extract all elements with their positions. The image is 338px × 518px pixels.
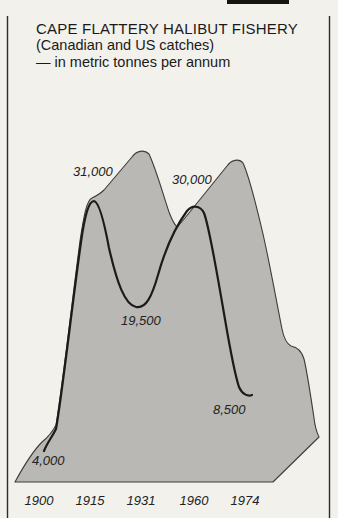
valley-value-label: 19,500 [121,313,162,328]
year-tick-1974: 1974 [231,493,260,508]
end-value-label: 8,500 [213,402,246,417]
year-tick-1931: 1931 [127,493,156,508]
year-tick-1960: 1960 [180,493,210,508]
start-value-label: 4,000 [32,453,65,468]
scanned-chart-page: CAPE FLATTERY HALIBUT FISHERY (Canadian … [0,0,338,518]
area-silhouette-3d [15,151,319,482]
top-crop-artifact-bar [227,0,289,4]
year-tick-1900: 1900 [25,493,55,508]
peak2-value-label: 30,000 [172,172,213,187]
peak1-value-label: 31,000 [73,164,114,179]
year-tick-1915: 1915 [76,493,106,508]
halibut-catch-chart: 31,000 30,000 19,500 8,500 4,000 1900 19… [0,0,338,518]
